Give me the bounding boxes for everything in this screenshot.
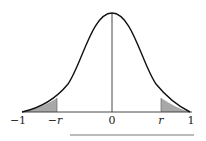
left-tail-shade <box>22 98 57 112</box>
tick-label-zero: 0 <box>109 114 116 127</box>
bell-curve <box>22 13 190 112</box>
tick-label-neg-r: −r <box>48 114 63 127</box>
tick-label-one: 1 <box>188 114 195 127</box>
bell-curve-diagram: −1 −r 0 r 1 <box>0 0 206 141</box>
tick-label-neg-one: −1 <box>10 114 26 127</box>
tick-label-r: r <box>158 114 164 127</box>
